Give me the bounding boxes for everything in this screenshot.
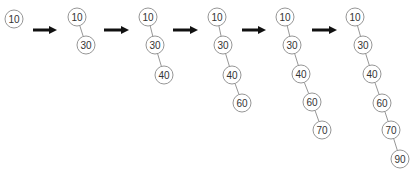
tree-step-1: 10 <box>5 10 23 28</box>
tree-edge <box>295 54 299 66</box>
node-value: 10 <box>142 12 154 23</box>
node-value: 30 <box>286 40 298 51</box>
tree-edge <box>150 26 153 37</box>
tree-step-6: 103040607090 <box>346 8 409 168</box>
tree-node: 40 <box>155 66 173 84</box>
tree-edge <box>219 26 221 36</box>
tree-node: 30 <box>146 36 164 54</box>
tree-node: 60 <box>303 93 321 111</box>
bst-insertion-diagram: 1010301030401030406010304060701030406070… <box>0 0 414 176</box>
node-value: 60 <box>236 98 248 109</box>
tree-node: 10 <box>139 8 157 26</box>
node-value: 40 <box>158 70 170 81</box>
tree-edge <box>357 26 360 37</box>
tree-node: 30 <box>283 36 301 54</box>
tree-node: 30 <box>214 36 232 54</box>
tree-node: 10 <box>276 8 294 26</box>
node-value: 30 <box>80 40 92 51</box>
tree-node: 30 <box>354 36 372 54</box>
node-value: 40 <box>295 69 307 80</box>
tree-edge <box>385 112 388 122</box>
tree-node: 10 <box>208 8 226 26</box>
tree-edge <box>394 139 398 151</box>
tree-node: 40 <box>292 65 310 83</box>
tree-node: 30 <box>77 36 95 54</box>
tree-edge <box>304 82 308 93</box>
node-value: 10 <box>71 12 83 23</box>
node-value: 10 <box>211 12 223 23</box>
tree-node: 10 <box>68 8 86 26</box>
tree-node: 70 <box>382 121 400 139</box>
node-value: 70 <box>316 125 328 136</box>
tree-node: 40 <box>363 65 381 83</box>
node-value: 60 <box>306 97 318 108</box>
node-value: 70 <box>385 125 397 136</box>
node-value: 30 <box>217 40 229 51</box>
tree-node: 70 <box>313 121 331 139</box>
tree-step-5: 1030406070 <box>276 8 331 139</box>
tree-edge <box>235 83 239 94</box>
tree-node: 60 <box>373 94 391 112</box>
trees-layer: 1010301030401030406010304060701030406070… <box>5 8 409 168</box>
node-value: 90 <box>394 154 406 165</box>
tree-step-2: 1030 <box>68 8 95 54</box>
right-arrow-icon <box>312 26 337 34</box>
tree-step-4: 10304060 <box>208 8 251 112</box>
tree-node: 40 <box>223 66 241 84</box>
node-value: 10 <box>279 12 291 23</box>
right-arrow-icon <box>33 26 57 34</box>
tree-edge <box>287 26 290 37</box>
node-value: 10 <box>349 12 361 23</box>
node-value: 30 <box>149 40 161 51</box>
tree-node: 60 <box>233 94 251 112</box>
node-value: 40 <box>366 69 378 80</box>
tree-node: 10 <box>346 8 364 26</box>
right-arrow-icon <box>242 26 266 34</box>
tree-node: 10 <box>5 10 23 28</box>
node-value: 30 <box>357 40 369 51</box>
tree-node: 90 <box>391 150 409 168</box>
right-arrow-icon <box>173 26 198 34</box>
tree-step-3: 103040 <box>139 8 173 84</box>
node-value: 60 <box>376 98 388 109</box>
tree-edge <box>158 54 162 67</box>
node-value: 40 <box>226 70 238 81</box>
node-value: 10 <box>8 14 20 25</box>
right-arrow-icon <box>104 26 129 34</box>
tree-edge <box>80 26 83 37</box>
tree-edge <box>315 110 319 121</box>
tree-edge <box>366 54 370 66</box>
tree-edge <box>375 83 379 95</box>
tree-edge <box>226 54 230 67</box>
arrows-layer <box>33 26 337 34</box>
